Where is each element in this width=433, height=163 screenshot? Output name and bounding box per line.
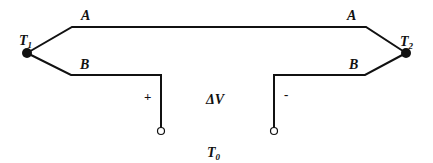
wire-b-left	[27, 53, 161, 128]
label-t2: T2	[400, 34, 414, 51]
label-b-right: B	[348, 57, 358, 72]
label-a-left: A	[80, 8, 90, 23]
thermocouple-diagram: A A B B T1 T2 T0 ΔV + -	[0, 0, 433, 163]
terminal-negative	[271, 128, 278, 135]
label-b-left: B	[79, 57, 89, 72]
label-minus: -	[284, 87, 288, 102]
wire-b-right	[274, 53, 406, 128]
label-t0: T0	[207, 145, 221, 162]
terminal-positive	[158, 128, 165, 135]
label-a-right: A	[346, 8, 356, 23]
label-plus: +	[144, 89, 151, 104]
label-t1: T1	[19, 33, 32, 50]
label-delta-v: ΔV	[205, 92, 226, 107]
wire-a	[27, 27, 406, 53]
